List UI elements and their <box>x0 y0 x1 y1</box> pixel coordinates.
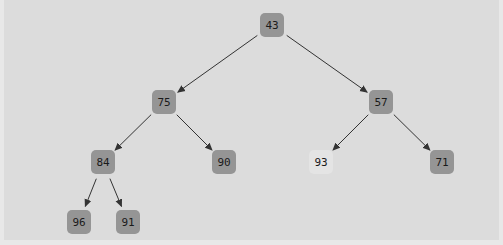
tree-node-84: 84 <box>91 150 115 174</box>
tree-node-71: 71 <box>430 150 454 174</box>
node-label: 71 <box>435 156 448 169</box>
node-label: 91 <box>121 216 134 229</box>
tree-edge <box>110 179 122 207</box>
node-label: 57 <box>374 96 387 109</box>
node-label: 96 <box>72 216 85 229</box>
tree-node-43: 43 <box>260 13 284 37</box>
node-label: 75 <box>157 96 170 109</box>
tree-node-75: 75 <box>152 90 176 114</box>
tree-edge <box>115 115 151 150</box>
tree-edge <box>178 35 258 92</box>
tree-node-57: 57 <box>369 90 393 114</box>
tree-edge <box>85 179 96 207</box>
tree-edge <box>394 115 430 150</box>
tree-node-96: 96 <box>67 210 91 234</box>
node-label: 43 <box>265 19 278 32</box>
tree-edge <box>287 35 367 92</box>
node-label: 84 <box>96 156 109 169</box>
tree-node-90: 90 <box>212 150 236 174</box>
tree-node-91: 91 <box>116 210 140 234</box>
tree-node-93: 93 <box>309 150 333 174</box>
tree-edge <box>177 115 212 150</box>
tree-edges <box>0 0 503 245</box>
node-label: 93 <box>314 156 327 169</box>
tree-edge <box>333 115 368 150</box>
node-label: 90 <box>217 156 230 169</box>
